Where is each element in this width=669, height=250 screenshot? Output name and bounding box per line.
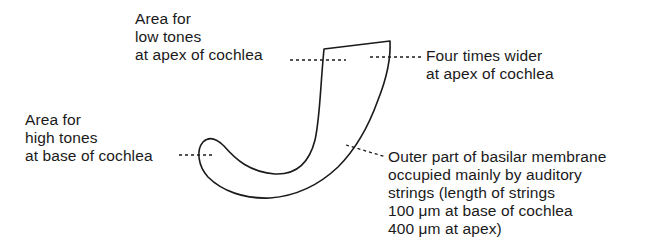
label-line: Area for [25,111,153,129]
label-line: 400 μm at apex) [388,220,606,238]
label-high-tones: Area for high tones at base of cochlea [25,111,153,165]
label-line: Four times wider [426,47,554,65]
label-line: Outer part of basilar membrane [388,148,606,166]
label-four-times-wider: Four times wider at apex of cochlea [426,47,554,83]
label-line: Area for [135,10,263,28]
label-line: high tones [25,129,153,147]
label-line: 100 μm at base of cochlea [388,202,606,220]
label-line: strings (length of strings [388,184,606,202]
label-line: at base of cochlea [25,147,153,165]
label-line: occupied mainly by auditory [388,166,606,184]
label-line: low tones [135,28,263,46]
label-line: at apex of cochlea [135,46,263,64]
label-outer-part: Outer part of basilar membrane occupied … [388,148,606,238]
label-line: at apex of cochlea [426,65,554,83]
label-low-tones: Area for low tones at apex of cochlea [135,10,263,64]
basilar-membrane-shape [199,41,390,198]
